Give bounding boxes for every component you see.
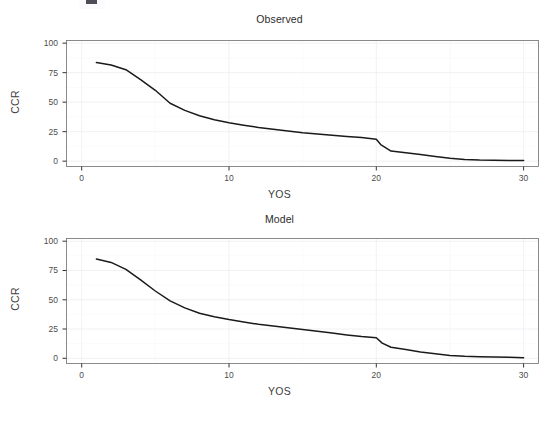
ytick-label-observed-100: 100 <box>30 38 58 48</box>
yaxis-title-model: CCR <box>9 279 21 319</box>
xtick-label-model-20: 20 <box>356 370 396 380</box>
yaxis-title-observed: CCR <box>9 82 21 122</box>
ytick-label-model-50: 50 <box>30 295 58 305</box>
chart-panel-model: Model <box>0 205 559 423</box>
xaxis-title-model: YOS <box>0 385 559 397</box>
ytick-label-model-25: 25 <box>30 324 58 334</box>
xtick-label-model-10: 10 <box>209 370 249 380</box>
ytick-label-observed-0: 0 <box>30 156 58 166</box>
xtick-label-model-30: 30 <box>504 370 544 380</box>
ytick-label-model-100: 100 <box>30 236 58 246</box>
ytick-label-model-0: 0 <box>30 353 58 363</box>
chart-panel-observed: Observed <box>0 0 559 211</box>
ytick-label-observed-75: 75 <box>30 68 58 78</box>
ytick-label-observed-50: 50 <box>30 97 58 107</box>
xtick-label-observed-10: 10 <box>209 173 249 183</box>
figure-container: Observed <box>0 0 559 423</box>
ytick-label-observed-25: 25 <box>30 127 58 137</box>
ytick-label-model-75: 75 <box>30 265 58 275</box>
xtick-label-observed-0: 0 <box>62 173 102 183</box>
xaxis-title-observed: YOS <box>0 188 559 200</box>
xtick-label-observed-20: 20 <box>356 173 396 183</box>
xtick-label-observed-30: 30 <box>504 173 544 183</box>
xtick-label-model-0: 0 <box>62 370 102 380</box>
